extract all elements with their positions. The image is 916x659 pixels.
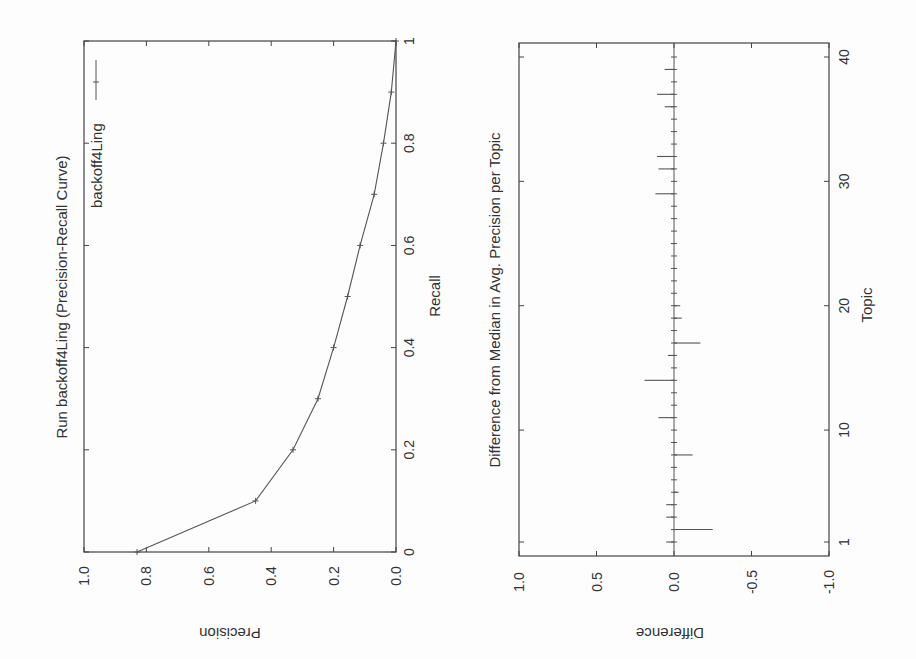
precision-recall-chart: 00.20.40.60.81 0.00.20.40.60.81.0 backof… xyxy=(53,37,443,642)
pr-curve-line xyxy=(137,41,396,552)
topic-tick-label: 1 xyxy=(836,538,852,546)
precision-tick-label: 0.8 xyxy=(138,566,154,586)
topic-tick-label: 30 xyxy=(836,173,852,189)
precision-tick-label: 1.0 xyxy=(76,566,92,586)
precision-tick-label: 0.2 xyxy=(326,566,342,586)
topic-axis-label: Topic xyxy=(858,287,875,323)
difference-tick-label: 0.0 xyxy=(666,572,682,592)
recall-tick-label: 1 xyxy=(401,37,417,45)
precision-tick-label: 0.0 xyxy=(388,566,404,586)
recall-tick-label: 0.4 xyxy=(401,338,417,358)
difference-tick-label: 0.5 xyxy=(589,572,605,592)
charts-canvas: 00.20.40.60.81 0.00.20.40.60.81.0 backof… xyxy=(0,0,916,659)
recall-tick-label: 0.8 xyxy=(401,133,417,153)
recall-tick-label: 0.6 xyxy=(401,235,417,255)
recall-axis-ticks: 00.20.40.60.81 xyxy=(84,37,417,556)
diff-chart-title: Difference from Median in Avg. Precision… xyxy=(486,132,503,468)
pr-legend: backoff4Ling xyxy=(88,60,105,208)
difference-axis-label: Difference xyxy=(636,625,704,642)
pr-chart-title: Run backoff4Ling (Precision-Recall Curve… xyxy=(53,155,70,438)
topic-tick-label: 10 xyxy=(836,422,852,438)
precision-tick-label: 0.4 xyxy=(263,566,279,586)
difference-tick-label: 1.0 xyxy=(511,572,527,592)
recall-axis-label: Recall xyxy=(426,275,443,317)
difference-tick-label: -1.0 xyxy=(821,570,837,594)
scanned-page: 00.20.40.60.81 0.00.20.40.60.81.0 backof… xyxy=(0,0,916,659)
topic-tick-label: 40 xyxy=(836,49,852,65)
topic-axis-ticks: 110203040 xyxy=(519,49,852,546)
precision-axis-ticks: 0.00.20.40.60.81.0 xyxy=(76,41,404,586)
precision-axis-label: Precision xyxy=(199,625,261,642)
precision-tick-label: 0.6 xyxy=(201,566,217,586)
topic-tick-label: 20 xyxy=(836,298,852,314)
recall-tick-label: 0.2 xyxy=(401,440,417,460)
difference-bars xyxy=(645,57,713,542)
pr-curve-markers xyxy=(134,38,399,555)
difference-tick-label: -0.5 xyxy=(744,570,760,594)
difference-chart: 110203040 1.00.50.0-0.5-1.0 Difference f… xyxy=(486,43,875,642)
legend-label: backoff4Ling xyxy=(88,123,105,208)
recall-tick-label: 0 xyxy=(401,548,417,556)
